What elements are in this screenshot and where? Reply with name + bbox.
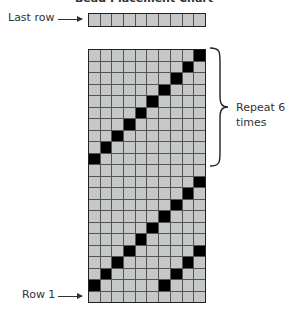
bead-cell	[159, 14, 170, 26]
bead-cell	[101, 108, 112, 119]
bead-cell	[183, 73, 194, 84]
bead-cell	[194, 14, 205, 26]
bead-cell	[89, 292, 100, 303]
bead-cell	[147, 269, 158, 280]
bead-cell	[136, 211, 147, 222]
bead-cell	[124, 62, 135, 73]
bead-cell	[194, 200, 205, 211]
bead-cell	[112, 165, 123, 176]
bead-cell	[194, 223, 205, 234]
bead-cell	[112, 142, 123, 153]
bead-cell	[183, 154, 194, 165]
bead-cell	[194, 234, 205, 245]
bead-cell	[159, 177, 170, 188]
bead-cell	[112, 188, 123, 199]
bead-cell	[194, 269, 205, 280]
bead-cell	[159, 96, 170, 107]
bead-cell	[171, 96, 182, 107]
bead-cell	[101, 73, 112, 84]
bead-cell	[89, 257, 100, 268]
bead-cell-filled	[89, 154, 100, 165]
bead-cell	[171, 131, 182, 142]
bead-cell	[194, 73, 205, 84]
bead-cell	[101, 165, 112, 176]
bead-cell	[112, 200, 123, 211]
bead-cell	[147, 142, 158, 153]
bead-cell	[101, 292, 112, 303]
bead-cell	[147, 73, 158, 84]
bead-cell	[136, 119, 147, 130]
bead-cell-filled	[183, 62, 194, 73]
bead-cell	[136, 50, 147, 61]
bead-cell	[194, 280, 205, 291]
bead-cell	[112, 177, 123, 188]
bead-cell	[124, 234, 135, 245]
bead-cell	[159, 73, 170, 84]
bead-cell	[124, 85, 135, 96]
bead-cell	[159, 108, 170, 119]
bead-cell	[136, 165, 147, 176]
bead-cell	[136, 257, 147, 268]
bead-cell-filled	[183, 188, 194, 199]
bead-cell-filled	[147, 223, 158, 234]
bead-cell	[171, 257, 182, 268]
bead-cell	[136, 62, 147, 73]
bead-cell	[101, 131, 112, 142]
bead-cell	[159, 154, 170, 165]
bead-cell	[183, 292, 194, 303]
bead-cell	[112, 108, 123, 119]
bead-cell	[124, 50, 135, 61]
bead-cell	[183, 119, 194, 130]
bead-cell	[112, 246, 123, 257]
bead-cell	[171, 108, 182, 119]
bead-cell	[136, 131, 147, 142]
bead-cell	[112, 96, 123, 107]
bead-cell	[147, 85, 158, 96]
bead-cell	[89, 108, 100, 119]
bead-cell	[89, 73, 100, 84]
bead-cell	[124, 165, 135, 176]
bead-cell	[101, 96, 112, 107]
bead-cell	[183, 14, 194, 26]
repeat-line-2: times	[236, 115, 285, 130]
bead-cell	[136, 269, 147, 280]
bead-cell	[194, 108, 205, 119]
bead-cell	[183, 246, 194, 257]
bead-cell	[124, 14, 135, 26]
bead-cell	[124, 131, 135, 142]
bead-cell	[112, 85, 123, 96]
bead-cell	[136, 96, 147, 107]
bead-cell	[112, 14, 123, 26]
bead-cell	[159, 292, 170, 303]
bead-cell-filled	[101, 269, 112, 280]
bead-cell	[101, 234, 112, 245]
bead-cell-filled	[159, 85, 170, 96]
bead-cell	[194, 142, 205, 153]
bead-cell	[136, 246, 147, 257]
bead-cell-filled	[89, 280, 100, 291]
bead-cell-filled	[136, 234, 147, 245]
bead-cell	[147, 50, 158, 61]
bead-cell	[147, 177, 158, 188]
bead-cell	[136, 14, 147, 26]
bead-cell	[112, 234, 123, 245]
bead-cell	[159, 269, 170, 280]
bead-cell	[147, 200, 158, 211]
bead-cell	[183, 85, 194, 96]
bead-cell	[194, 131, 205, 142]
bead-cell	[194, 96, 205, 107]
bead-cell	[124, 292, 135, 303]
bead-cell	[89, 188, 100, 199]
bead-cell	[101, 85, 112, 96]
bead-cell	[147, 257, 158, 268]
bead-cell	[171, 62, 182, 73]
bead-cell	[171, 246, 182, 257]
bead-cell	[194, 62, 205, 73]
bead-cell	[124, 269, 135, 280]
bead-cell	[124, 280, 135, 291]
bead-cell	[147, 246, 158, 257]
bead-cell-filled	[124, 119, 135, 130]
bead-cell	[136, 73, 147, 84]
bead-cell	[159, 142, 170, 153]
bead-cell	[159, 223, 170, 234]
